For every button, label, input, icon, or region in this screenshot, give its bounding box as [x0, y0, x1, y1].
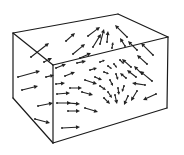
arrow-icon [64, 72, 75, 77]
arrow-icon [137, 55, 148, 65]
arrow-icon [99, 60, 105, 63]
arrow-icon [111, 42, 114, 49]
arrow-icon [30, 43, 49, 58]
arrow-icon [89, 67, 97, 71]
arrow-icon [72, 44, 85, 55]
arrow-icon [120, 38, 126, 47]
arrow-icon [94, 76, 102, 80]
arrow-icon [69, 86, 82, 90]
arrow-icon [106, 31, 110, 43]
arrow-icon [56, 101, 71, 105]
arrow-icon [114, 94, 118, 104]
box-edge [167, 37, 168, 108]
arrow-icon [143, 93, 157, 100]
arrow-icon [92, 34, 101, 48]
box-edge [118, 14, 168, 37]
arrow-icon [61, 125, 80, 129]
arrow-icon [141, 43, 154, 56]
arrow-icon [84, 79, 97, 85]
arrow-icon [124, 95, 129, 105]
arrow-icon [76, 60, 86, 64]
arrow-icon [87, 27, 100, 37]
vector-field-diagram [0, 0, 184, 155]
arrow-icon [107, 91, 112, 98]
box-edge [53, 108, 167, 143]
arrow-icon [127, 70, 137, 78]
arrow-icon [117, 87, 120, 95]
arrow-icon [56, 91, 70, 95]
arrow-icon [131, 90, 138, 101]
arrow-icon [115, 25, 128, 38]
arrow-icon [103, 71, 109, 74]
arrow-icon [65, 33, 75, 42]
arrow-icon [84, 107, 98, 113]
arrow-icon [67, 109, 80, 113]
box-edge [53, 37, 168, 65]
arrow-icon [103, 97, 110, 104]
arrow-icon [109, 79, 113, 86]
arrow-icon [122, 85, 125, 92]
arrow-icon [132, 82, 146, 86]
vector-arrows [17, 25, 157, 129]
arrow-icon [140, 71, 153, 82]
box-wireframe [13, 14, 168, 143]
arrow-icon [107, 65, 112, 69]
arrow-icon [34, 118, 50, 124]
arrow-icon [115, 73, 118, 80]
arrow-icon [17, 70, 40, 78]
arrow-icon [134, 66, 143, 75]
arrow-icon [81, 91, 93, 96]
arrow-icon [55, 81, 65, 85]
arrow-icon [21, 85, 38, 91]
arrow-icon [99, 85, 106, 90]
arrow-icon [113, 63, 117, 68]
arrow-icon [37, 102, 53, 107]
box-edge [13, 14, 118, 33]
arrow-icon [120, 73, 127, 79]
